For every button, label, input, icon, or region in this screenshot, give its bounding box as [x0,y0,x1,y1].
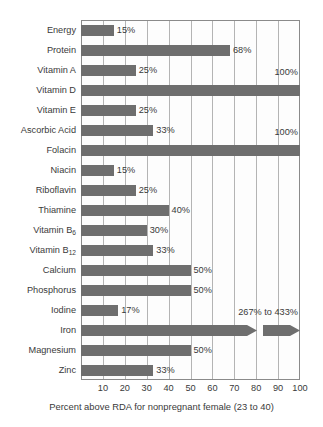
gridline-10 [103,21,104,379]
gridline-90 [278,21,279,379]
x-tick-100: 100 [287,383,313,393]
gridline-80 [256,21,257,379]
category-label-zinc: Zinc [59,365,76,376]
category-label-calcium: Calcium [43,265,76,276]
gridline-30 [147,21,148,379]
category-label-ascorbic-acid: Ascorbic Acid [21,125,76,136]
category-label-vitamin-e: Vitamin E [37,105,76,116]
plot-area [81,20,300,380]
gridline-40 [169,21,170,379]
category-label-riboflavin: Riboflavin [36,185,76,196]
category-label-phosphorus: Phosphorus [27,285,76,296]
category-label-thiamine: Thiamine [38,205,76,216]
category-label-protein: Protein [47,45,76,56]
category-label-iodine: Iodine [51,305,76,316]
category-label-vitamin-a: Vitamin A [37,65,76,76]
category-label-folacin: Folacin [46,145,76,156]
category-label-vitamin-b12: Vitamin B12 [30,245,77,256]
gridline-50 [191,21,192,379]
category-label-iron: Iron [60,325,76,336]
category-label-vitamin-d: Vitamin D [36,85,76,96]
gridline-60 [212,21,213,379]
gridline-20 [125,21,126,379]
category-label-vitamin-b6: Vitamin B6 [33,225,76,236]
rda-bar-chart: EnergyProteinVitamin AVitamin DVitamin E… [0,0,323,427]
x-axis-tick-labels: 102030405060708090100 [81,383,300,396]
gridline-70 [234,21,235,379]
category-label-magnesium: Magnesium [29,345,77,356]
category-label-energy: Energy [47,25,76,36]
x-axis-caption: Percent above RDA for nonpregnant female… [0,401,323,412]
category-label-niacin: Niacin [50,165,76,176]
